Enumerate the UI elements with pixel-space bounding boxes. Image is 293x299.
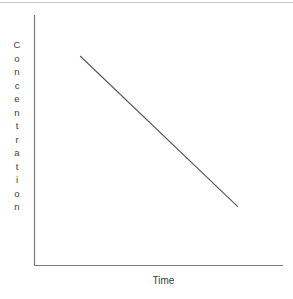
y-axis-title-letter: n	[14, 200, 19, 214]
y-axis-title-letter: e	[14, 92, 19, 106]
y-axis-title-letter: c	[15, 79, 20, 93]
y-axis-title-letter: t	[16, 119, 19, 133]
y-axis-title-letter: i	[16, 173, 18, 187]
y-axis-title-letter: r	[15, 133, 18, 147]
data-series-line	[80, 56, 238, 207]
y-axis-title: Concentration	[6, 38, 28, 214]
y-axis-title-letter: o	[14, 52, 19, 66]
y-axis-title-letter: n	[14, 106, 19, 120]
y-axis-title-letter: t	[16, 160, 19, 174]
x-axis-title: Time	[0, 275, 293, 286]
chart-figure: Concentration Time	[0, 0, 293, 299]
chart-plot-svg	[0, 0, 293, 299]
y-axis-title-letter: n	[14, 65, 19, 79]
y-axis-title-letter: o	[14, 187, 19, 201]
y-axis-title-letter: C	[14, 38, 21, 52]
y-axis-title-letter: a	[14, 146, 19, 160]
